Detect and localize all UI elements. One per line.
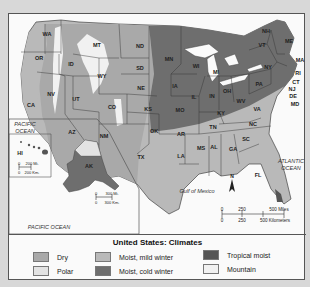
state-label-ar: AR: [177, 131, 185, 137]
state-label-mi: MI: [213, 69, 219, 75]
compass-arrow: [229, 179, 235, 192]
state-label-fl: FL: [255, 172, 262, 178]
scale-mi-0: 0: [221, 207, 224, 212]
state-label-mo: MO: [176, 107, 185, 113]
swatch-tropical: [203, 250, 219, 260]
state-label-ms: MS: [197, 145, 205, 151]
state-label-wy: WY: [98, 73, 107, 79]
state-label-co: CO: [108, 104, 116, 110]
state-label-pa: PA: [255, 81, 262, 87]
hawaii-islands: [20, 141, 48, 155]
state-label-ca: CA: [27, 102, 35, 108]
legend-label-mountain: Mountain: [227, 266, 256, 273]
scale-km-250: 250: [238, 218, 246, 223]
legend-item-dry: Dry: [33, 252, 68, 262]
state-label-nd: ND: [136, 43, 144, 49]
state-label-ak: AK: [85, 163, 93, 169]
gulf-of-mexico-label: Gulf of Mexico: [167, 188, 227, 195]
state-label-va: VA: [253, 106, 260, 112]
state-label-ky: KY: [217, 110, 225, 116]
ak-scale-km-0: 0: [95, 200, 97, 205]
hi-scale-km: 200 Km.: [25, 170, 40, 175]
pacific-ocean-label-inset: PACIFIC OCEAN: [9, 224, 89, 231]
state-label-nh: NH: [262, 28, 270, 34]
legend-label-tropical: Tropical moist: [227, 252, 270, 259]
state-label-az: AZ: [68, 129, 75, 135]
legend-title: United States: Climates: [9, 238, 306, 247]
state-label-sd: SD: [136, 65, 144, 71]
state-label-il: IL: [192, 94, 197, 100]
legend-item-moist-cold: Moist, cold winter: [95, 266, 173, 276]
state-label-sc: SC: [242, 136, 250, 142]
state-label-oh: OH: [223, 88, 231, 94]
state-label-mt: MT: [93, 42, 101, 48]
map-frame: WA OR CA ID NV MT WY UT AZ CO NM ND SD N…: [8, 13, 305, 280]
state-label-la: LA: [177, 153, 184, 159]
scale-mi-250: 250: [238, 207, 246, 212]
legend-label-moist-cold: Moist, cold winter: [119, 268, 173, 275]
state-label-nj: NJ: [288, 86, 295, 92]
state-label-md: MD: [291, 101, 300, 107]
hi-scale-mi: 200 Mi.: [25, 161, 38, 166]
ak-scale-km: 300 Km.: [105, 200, 120, 205]
legend-item-mountain: Mountain: [203, 264, 256, 274]
legend-label-polar: Polar: [57, 268, 73, 275]
state-label-al: AL: [210, 144, 217, 150]
legend-item-moist-mild: Moist, mild winter: [95, 252, 173, 262]
state-label-id: ID: [68, 61, 74, 67]
atlantic-ocean-label: ATLANTIC OCEAN: [275, 158, 307, 171]
state-label-nm: NM: [100, 133, 109, 139]
scale-mi-500: 500 Miles: [269, 207, 288, 212]
state-label-mn: MN: [165, 56, 174, 62]
state-label-ga: GA: [229, 146, 237, 152]
state-label-me: ME: [285, 38, 293, 44]
swatch-moist-cold: [95, 266, 111, 276]
legend-item-polar: Polar: [33, 266, 73, 276]
legend-label-dry: Dry: [57, 254, 68, 261]
state-label-ma: MA: [296, 57, 305, 63]
hi-scale-mi-0: 0: [18, 161, 20, 166]
state-label-ia: IA: [172, 83, 178, 89]
state-label-ok: OK: [150, 128, 158, 134]
scale-km-500: 500 Kilometers: [260, 218, 290, 223]
state-label-ut: UT: [72, 96, 79, 102]
legend-label-moist-mild: Moist, mild winter: [119, 254, 173, 261]
swatch-polar: [33, 266, 49, 276]
state-label-ny: NY: [264, 64, 272, 70]
state-label-vt: VT: [258, 42, 265, 48]
state-label-ct: CT: [292, 79, 299, 85]
state-label-tx: TX: [137, 154, 144, 160]
legend-item-tropical: Tropical moist: [203, 250, 270, 260]
swatch-dry: [33, 252, 49, 262]
scale-km-0: 0: [221, 218, 224, 223]
pacific-ocean-label: PACIFIC OCEAN: [9, 121, 41, 134]
state-label-wi: WI: [193, 63, 200, 69]
state-label-hi: HI: [17, 150, 23, 156]
state-label-or: OR: [35, 55, 43, 61]
state-label-in: IN: [209, 93, 215, 99]
map-legend: United States: Climates Dry Polar Moist,…: [9, 234, 306, 282]
swatch-mountain: [203, 264, 219, 274]
state-label-ri: RI: [295, 70, 301, 76]
swatch-moist-mild: [95, 252, 111, 262]
state-label-tn: TN: [209, 124, 216, 130]
compass-north-label: N: [230, 173, 234, 179]
state-label-wv: WV: [237, 98, 246, 104]
climate-map: WA OR CA ID NV MT WY UT AZ CO NM ND SD N…: [9, 14, 306, 234]
ak-scale-mi: 300 Mi.: [105, 191, 118, 196]
state-label-ne: NE: [137, 85, 145, 91]
state-label-wa: WA: [43, 31, 52, 37]
state-label-de: DE: [289, 93, 297, 99]
state-label-nv: NV: [47, 91, 55, 97]
hi-scale-km-0: 0: [18, 170, 20, 175]
state-label-ks: KS: [144, 106, 152, 112]
state-label-nc: NC: [249, 121, 257, 127]
ak-scale-mi-0: 0: [95, 191, 97, 196]
